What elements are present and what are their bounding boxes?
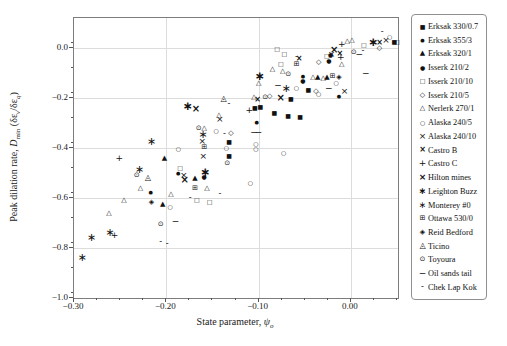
legend-marker-icon: ⊙ [417,256,428,263]
data-point: ■ [288,96,294,102]
legend-marker-icon: × [417,132,428,141]
legend-label: Alaska 240/5 [428,118,472,127]
data-point: - [361,47,364,55]
y-axis-minor-tick [71,192,73,193]
legend-item: ■Erksak 330/0.7 [417,20,483,33]
data-point: ○ [214,128,219,134]
legend-item: □Isserk 210/10 [417,75,483,88]
data-point: △ [270,66,275,73]
x-tick-label: −0.10 [247,301,268,311]
data-point: × [216,115,224,124]
data-point: △ [168,191,173,198]
legend: ■Erksak 330/0.7●Erksak 355/3▲Erksak 320/… [411,14,487,300]
y-axis-minor-tick [71,67,73,68]
data-point: △ [106,210,111,217]
legend-marker-icon: ∗ [417,201,428,210]
data-point: − [362,69,370,78]
legend-marker-icon: ● [417,38,428,43]
data-point: ○ [224,145,229,151]
data-point: ○ [294,85,299,91]
x-tick-label: −0.30 [63,301,84,311]
data-point: △ [349,37,354,44]
data-point: □ [274,46,280,52]
y-tick-label: −1.0 [38,292,68,302]
legend-marker-icon: ◬ [417,242,428,250]
y-axis-major-tick [69,97,73,98]
data-point: − [325,84,333,93]
data-point: □ [207,199,213,205]
data-point: ● [255,120,259,125]
data-point: ⊙ [158,221,164,228]
data-point: ⊙ [285,71,291,78]
data-point: - [223,130,226,138]
y-tick-label: −0.8 [38,242,68,252]
legend-marker-icon: ● [417,65,428,71]
data-point: ■ [226,153,232,159]
x-axis-subscript-o: o [270,322,274,330]
data-point: ■ [285,113,291,119]
x-axis-minor-tick [304,298,305,300]
legend-label: Isserk 210/10 [428,77,473,86]
data-point: × [382,36,390,45]
legend-label: Erksak 355/3 [428,36,472,45]
data-point: ∗ [105,227,114,238]
data-point: ▲ [160,201,165,208]
legend-label: Ottawa 530/0 [428,214,473,223]
legend-marker-icon: × [417,146,428,154]
x-axis-minor-tick [211,298,212,300]
data-point: ○ [176,146,181,152]
y-tick-label: −0.4 [38,142,68,152]
y-axis-minor-tick [71,242,73,243]
legend-item: +Castro C [417,157,483,170]
x-axis-minor-tick [281,298,282,300]
legend-item: ▲Erksak 320/1 [417,47,483,60]
y-axis-label-text: Peak dilation rate, [8,147,19,222]
data-point: ◈ [336,74,341,81]
data-point: + [338,40,346,49]
legend-label: Erksak 330/0.7 [428,22,478,31]
data-point: △ [310,74,315,81]
data-point: ∗ [282,83,291,94]
y-axis-minor-tick [71,167,73,168]
data-point: ○ [316,91,321,97]
data-point: ○ [167,204,172,210]
x-axis-label-text: State parameter, [197,316,264,327]
legend-marker-icon: ◈ [417,229,428,236]
x-tick-label: 0.00 [342,301,358,311]
data-point: - [381,28,384,36]
gridline-vertical [259,18,260,298]
legend-marker-icon: ⊞ [417,215,428,222]
data-point: ○ [281,150,286,156]
y-axis-subscript-q: q [14,96,22,100]
data-point: ⊞ [294,61,300,68]
data-point: ⊞ [201,144,207,151]
legend-item: ○Alaska 240/5 [417,116,483,129]
data-point: ∗ [78,252,87,263]
legend-marker-icon: □ [417,78,428,84]
data-point: △ [204,185,209,192]
x-axis-minor-tick [96,298,97,300]
gridline-horizontal [74,98,398,99]
y-axis-minor-tick [71,42,73,43]
data-point: △ [321,75,326,82]
data-point: □ [394,39,400,45]
legend-label: Monterey #0 [428,201,471,210]
y-axis-major-tick [69,47,73,48]
data-point: ◈ [149,199,154,206]
data-point: ● [300,78,305,84]
data-point: □ [282,51,288,57]
data-point: − [255,128,263,137]
data-point: - [189,194,192,202]
data-point: ∗ [368,36,378,48]
gridline-vertical [351,18,352,298]
gridline-horizontal [74,248,398,249]
data-point: × [192,104,200,114]
legend-label: Leighton Buzz [428,187,477,196]
legend-marker-icon: + [417,159,428,168]
legend-label: Isserk 210/2 [428,63,469,72]
legend-item: ⊞Ottawa 530/0 [417,212,483,225]
data-point: ■ [306,87,312,93]
data-point: ■ [297,114,303,120]
y-tick-label: 0.0 [38,42,68,52]
y-axis-major-tick [69,147,73,148]
